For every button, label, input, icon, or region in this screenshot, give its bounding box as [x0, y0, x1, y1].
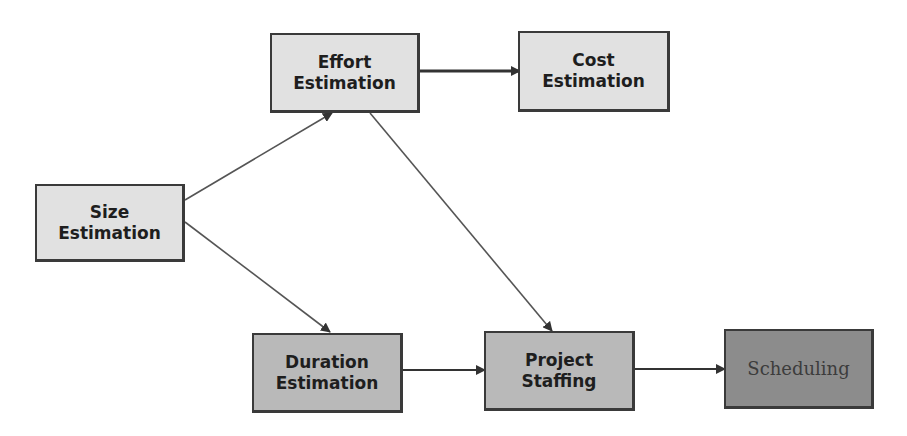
- node-label-line: Cost: [542, 50, 645, 71]
- node-scheduling: Scheduling: [724, 329, 874, 409]
- node-label-line: Effort: [293, 52, 396, 73]
- node-label-line: Estimation: [58, 223, 161, 244]
- edge-size-to-effort: [185, 113, 332, 200]
- node-label-line: Staffing: [521, 371, 596, 392]
- node-project-staffing: Project Staffing: [484, 331, 635, 411]
- node-size-estimation: Size Estimation: [35, 184, 185, 262]
- node-duration-estimation: Duration Estimation: [252, 333, 403, 413]
- node-label-line: Estimation: [276, 373, 379, 394]
- node-label-line: Scheduling: [747, 358, 849, 379]
- node-label-line: Project: [521, 350, 596, 371]
- estimation-flow-diagram: Size Estimation Effort Estimation Cost E…: [0, 0, 907, 436]
- node-label-line: Duration: [276, 352, 379, 373]
- edge-effort-to-staffing: [370, 113, 552, 331]
- node-label-line: Estimation: [293, 73, 396, 94]
- edge-size-to-duration: [185, 222, 330, 332]
- node-label-line: Estimation: [542, 71, 645, 92]
- node-cost-estimation: Cost Estimation: [518, 31, 670, 112]
- node-effort-estimation: Effort Estimation: [270, 33, 420, 113]
- node-label-line: Size: [58, 202, 161, 223]
